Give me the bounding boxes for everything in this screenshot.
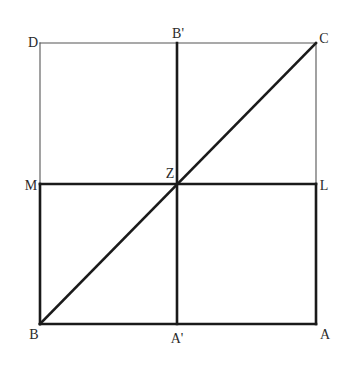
point-label-a: A xyxy=(320,327,331,342)
point-label-c: C xyxy=(319,31,328,46)
point-label-z: Z xyxy=(166,166,175,181)
point-label-d: D xyxy=(28,35,38,50)
point-label-l: L xyxy=(320,178,329,193)
point-label-m: M xyxy=(25,178,38,193)
point-label-b-prime: B' xyxy=(172,26,184,41)
point-label-a-prime: A' xyxy=(171,331,184,346)
point-label-b: B xyxy=(29,327,38,342)
geometry-diagram: DB'CZMLBA'A xyxy=(0,0,349,367)
